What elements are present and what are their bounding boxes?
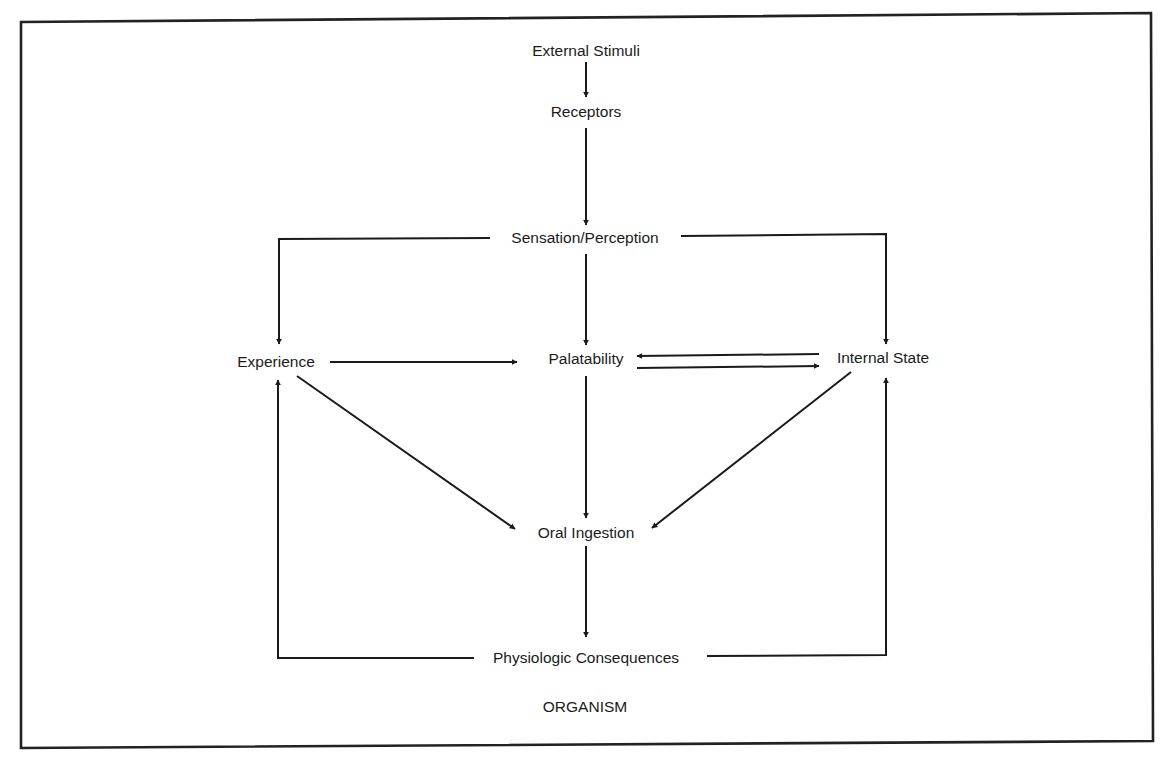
node-receptors: Receptors	[551, 103, 622, 120]
edge-palatability-to-internal-state	[637, 366, 819, 368]
container-label-organism: ORGANISM	[543, 698, 627, 715]
node-sensation-perception: Sensation/Perception	[511, 229, 658, 246]
node-internal-state: Internal State	[837, 349, 929, 366]
node-physiologic-consequences: Physiologic Consequences	[493, 649, 679, 666]
node-external-stimuli: External Stimuli	[532, 42, 640, 59]
flow-diagram: External Stimuli Receptors Sensation/Per…	[0, 0, 1168, 759]
edge-sensation-to-internal-state	[681, 234, 886, 344]
node-oral-ingestion: Oral Ingestion	[538, 524, 635, 541]
edge-consequences-to-internal-state	[707, 378, 886, 656]
edge-internal-state-to-palatability	[637, 354, 819, 356]
edge-experience-to-oral-ingestion	[297, 376, 515, 529]
node-palatability: Palatability	[549, 350, 624, 367]
node-experience: Experience	[237, 353, 315, 370]
edge-consequences-to-experience	[278, 380, 474, 658]
edge-internal-state-to-oral-ingestion	[652, 372, 851, 528]
edge-sensation-to-experience	[279, 238, 490, 344]
